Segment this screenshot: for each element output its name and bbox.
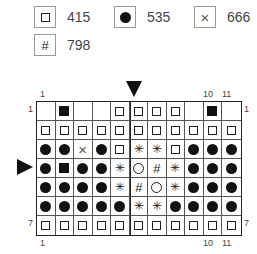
filled-dot-icon (40, 163, 51, 174)
grid-cell (130, 102, 149, 121)
empty-square-icon (208, 126, 217, 135)
grid-cell (148, 216, 167, 235)
filled-dot-icon (59, 144, 70, 155)
grid-cell (222, 102, 241, 121)
empty-square-icon (227, 126, 236, 135)
filled-dot-icon (226, 144, 237, 155)
grid-cell (37, 121, 56, 140)
grid-cell (56, 216, 75, 235)
filled-square-icon (207, 106, 217, 116)
row-number-right-7: 7 (244, 218, 249, 228)
grid-cell: ✳ (130, 140, 149, 159)
grid-cell (111, 216, 130, 235)
grid-cell (148, 121, 167, 140)
grid-cell (111, 102, 130, 121)
grid-cell (93, 216, 112, 235)
legend-label: 666 (227, 9, 250, 25)
grid-cell (93, 197, 112, 216)
filled-dot-icon (96, 201, 107, 212)
grid-cell (111, 140, 130, 159)
filled-square-icon (59, 163, 69, 173)
filled-dot-icon (207, 201, 218, 212)
grid-cell: ✳ (130, 197, 149, 216)
empty-square-icon (134, 126, 143, 135)
filled-dot-icon (114, 201, 125, 212)
asterisk-icon: ✳ (170, 162, 180, 174)
filled-dot-icon (226, 182, 237, 193)
empty-square-icon (115, 221, 124, 230)
grid-cell (74, 121, 93, 140)
grid-cell (93, 121, 112, 140)
row-number-right-1: 1 (244, 104, 249, 114)
grid-cell (167, 140, 186, 159)
legend-item-415: 415 (34, 6, 90, 28)
filled-dot-icon (40, 201, 51, 212)
grid-cell: ✳ (111, 178, 130, 197)
asterisk-icon: ✳ (170, 181, 180, 193)
col-number-top-1: 1 (40, 89, 45, 99)
grid-cell: ✳ (148, 140, 167, 159)
grid-cell (148, 178, 167, 197)
filled-dot-icon (96, 144, 107, 155)
filled-dot-icon (77, 182, 88, 193)
asterisk-icon: ✳ (134, 143, 144, 155)
empty-square-icon (115, 107, 124, 116)
hash-icon: # (135, 181, 142, 194)
open-circle-icon (151, 182, 162, 193)
grid-cell (204, 197, 223, 216)
grid-cell (74, 216, 93, 235)
empty-square-icon (134, 107, 143, 116)
empty-square-icon (171, 126, 180, 135)
grid-cell (93, 102, 112, 121)
col-number-bottom-11: 11 (222, 238, 231, 248)
col-number-top-10: 10 (203, 89, 213, 99)
empty-square-icon (78, 221, 87, 230)
grid-cell (74, 159, 93, 178)
filled-dot-icon (226, 201, 237, 212)
filled-dot-icon (77, 163, 88, 174)
grid-cell (148, 102, 167, 121)
filled-dot-icon (40, 182, 51, 193)
grid-cell: ✳ (111, 159, 130, 178)
grid-cell: × (74, 140, 93, 159)
asterisk-icon: ✳ (152, 200, 162, 212)
grid-cell (37, 140, 56, 159)
hash-icon: # (34, 34, 56, 56)
empty-square-icon (227, 221, 236, 230)
grid-cell (204, 178, 223, 197)
empty-square-icon (115, 126, 124, 135)
empty-square-icon (189, 221, 198, 230)
empty-square-icon (189, 126, 198, 135)
legend-item-798: # 798 (34, 34, 90, 56)
grid-cell (74, 102, 93, 121)
empty-square-icon (41, 126, 50, 135)
filled-square-icon (59, 106, 69, 116)
empty-square-icon (34, 6, 56, 28)
legend-item-666: × 666 (194, 6, 250, 28)
empty-square-icon (171, 107, 180, 116)
grid-cell (222, 140, 241, 159)
empty-square-icon (171, 221, 180, 230)
cross-icon: × (78, 142, 87, 157)
filled-dot-icon (207, 144, 218, 155)
grid-cell (167, 102, 186, 121)
grid-cell (185, 159, 204, 178)
row-number-left-7: 7 (28, 218, 33, 228)
grid-cell (222, 216, 241, 235)
grid-cell (37, 216, 56, 235)
grid-cell (37, 102, 56, 121)
legend-label: 415 (67, 9, 90, 25)
grid-cell (222, 121, 241, 140)
filled-dot-icon (96, 182, 107, 193)
grid-cell (130, 216, 149, 235)
cross-icon: × (194, 6, 216, 28)
filled-dot-icon (170, 201, 181, 212)
grid-cell (185, 178, 204, 197)
empty-square-icon (134, 221, 143, 230)
grid-cell (185, 121, 204, 140)
filled-dot-icon (59, 182, 70, 193)
empty-square-icon (208, 221, 217, 230)
grid-cell (204, 140, 223, 159)
grid-cell (74, 197, 93, 216)
grid-cell (37, 197, 56, 216)
